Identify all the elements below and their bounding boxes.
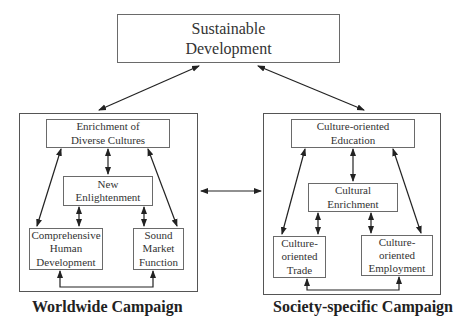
culture-oriented-education-box: Culture-oriented Education (291, 119, 415, 148)
box-label-line: Sustainable (185, 19, 271, 38)
enrichment-diverse-cultures-box: Enrichment of Diverse Cultures (46, 119, 170, 148)
box-label-line: Development (185, 39, 271, 58)
sustainable-development-box: Sustainable Development (117, 14, 340, 63)
box-label-line: oriented (369, 249, 426, 262)
box-label-line: Employment (369, 262, 426, 275)
box-label-line: Diverse Cultures (71, 134, 145, 147)
box-label-line: New (76, 178, 141, 191)
box-label-line: Culture-oriented (317, 120, 390, 133)
box-label-line: Market (139, 242, 178, 255)
culture-oriented-employment-box: Culture- oriented Employment (361, 235, 433, 276)
box-label-line: Enlightenment (76, 191, 141, 204)
box-label-line: Trade (281, 264, 318, 277)
comprehensive-human-development-box: Comprehensive Human Development (29, 228, 103, 270)
box-label-line: Culture- (369, 236, 426, 249)
box-label-line: oriented (281, 250, 318, 263)
new-enlightenment-box: New Enlightenment (63, 176, 153, 206)
box-label-line: Human (31, 242, 100, 255)
cultural-enrichment-box: Cultural Enrichment (308, 183, 398, 212)
worldwide-campaign-title: Worldwide Campaign (32, 298, 183, 316)
culture-oriented-trade-box: Culture- oriented Trade (273, 236, 326, 278)
box-label-line: Cultural (327, 184, 378, 197)
society-specific-campaign-title: Society-specific Campaign (273, 298, 453, 316)
box-label-line: Enrichment of (71, 120, 145, 133)
box-label-line: Comprehensive (31, 229, 100, 242)
box-label-line: Education (317, 134, 390, 147)
box-label-line: Function (139, 256, 178, 269)
box-label-line: Culture- (281, 237, 318, 250)
box-label-line: Development (31, 256, 100, 269)
box-label-line: Sound (139, 229, 178, 242)
sound-market-function-box: Sound Market Function (133, 228, 184, 270)
box-label-line: Enrichment (327, 198, 378, 211)
